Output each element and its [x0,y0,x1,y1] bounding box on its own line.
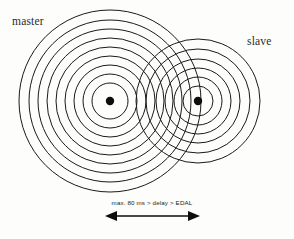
range-arrow-head-right [188,211,200,221]
range-caption: max. 80 ms > delay > EDAL [112,199,193,206]
range-arrow [105,211,200,221]
slave-center-dot [194,97,202,105]
diagram-canvas: master slave max. 80 ms > delay > EDAL [0,0,294,239]
wave-propagation-diagram: master slave max. 80 ms > delay > EDAL [0,0,294,239]
master-center-dot [106,97,114,105]
slave-label: slave [247,35,272,47]
range-arrow-head-left [105,211,117,221]
master-label: master [12,15,44,27]
